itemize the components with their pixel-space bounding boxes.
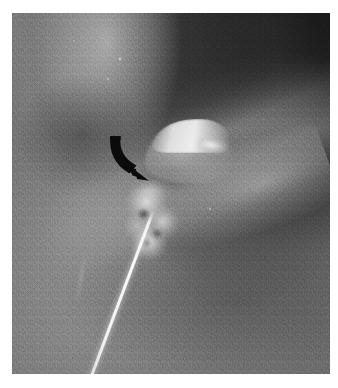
radiograph-image [12,13,330,374]
vignette [12,13,330,374]
screenshot-root [0,0,338,388]
